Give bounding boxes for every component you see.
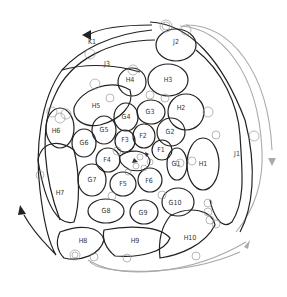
region-outlines	[38, 29, 219, 259]
label-H5: H5	[92, 102, 101, 110]
label-G10: G10	[169, 199, 182, 207]
label-H1: H1	[199, 160, 208, 168]
label-F3: F3	[121, 136, 129, 144]
label-G1: G1	[172, 160, 181, 168]
label-F2: F2	[139, 132, 147, 140]
node-circles	[36, 20, 259, 262]
label-F4: F4	[103, 156, 111, 164]
label-H3: H3	[164, 76, 173, 84]
label-G2: G2	[166, 128, 175, 136]
label-G4: G4	[122, 113, 131, 121]
label-H4: H4	[126, 76, 135, 84]
label-H7: H7	[56, 189, 65, 197]
label-G7: G7	[88, 176, 97, 184]
label-H10: H10	[184, 234, 197, 242]
label-G5: G5	[100, 126, 109, 134]
label-G3: G3	[146, 108, 155, 116]
label-J1: J1	[233, 150, 240, 158]
label-H6: H6	[52, 127, 61, 135]
center-marker-icon	[132, 158, 138, 163]
arrow-up-left-icon	[18, 205, 26, 215]
label-J2: J2	[172, 38, 179, 46]
label-F6: F6	[145, 177, 153, 185]
arrow-up-right-icon	[244, 240, 250, 249]
label-K1: K1	[88, 38, 96, 46]
label-F1: F1	[157, 146, 165, 154]
label-H2: H2	[177, 104, 186, 112]
label-J3: J3	[103, 60, 110, 68]
label-H8: H8	[79, 237, 88, 245]
spiral-region-diagram: F1 F2 F3 F4 F5 F6 G1 G2 G3 G4 G5 G6 G7 G…	[0, 0, 287, 297]
label-G6: G6	[80, 139, 89, 147]
label-F5: F5	[119, 180, 127, 188]
grey-outer-arcs	[88, 25, 276, 272]
label-G9: G9	[139, 209, 148, 217]
label-G8: G8	[102, 207, 111, 215]
label-H9: H9	[131, 237, 140, 245]
arrow-down-icon	[268, 158, 276, 166]
